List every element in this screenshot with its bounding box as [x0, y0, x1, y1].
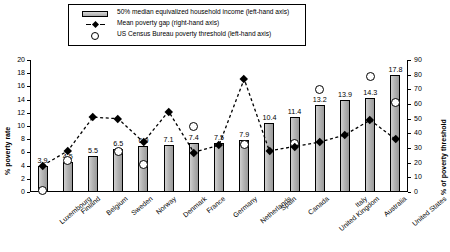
left-tick — [27, 192, 30, 193]
x-axis-label: Canada — [306, 195, 329, 216]
x-axis-label: Spain — [280, 195, 298, 212]
right-tick-label: 60 — [414, 100, 434, 107]
right-tick — [408, 119, 411, 120]
left-tick-label: 12 — [5, 109, 25, 116]
legend-label-bar: 50% median equivalized household income … — [117, 8, 289, 16]
legend-circle-swatch — [73, 31, 117, 40]
left-tick-label: 14 — [5, 96, 25, 103]
right-tick — [408, 163, 411, 164]
right-tick — [408, 177, 411, 178]
right-tick-label: 70 — [414, 85, 434, 92]
right-tick-label: 0 — [414, 188, 434, 195]
legend-line-swatch — [73, 20, 117, 29]
right-tick — [408, 133, 411, 134]
left-tick-label: 10 — [5, 122, 25, 129]
right-tick-label: 30 — [414, 144, 434, 151]
right-tick-label: 20 — [414, 159, 434, 166]
poverty-gap-line — [30, 60, 408, 192]
left-tick-label: 0 — [5, 188, 25, 195]
x-axis-label: France — [205, 195, 226, 214]
x-axis-label: Germany — [232, 195, 259, 219]
right-tick — [408, 60, 411, 61]
x-axis-label: Norway — [155, 195, 178, 216]
right-tick — [408, 75, 411, 76]
right-tick — [408, 148, 411, 149]
legend-item-circle: US Census Bureau poverty threshold (left… — [73, 30, 301, 40]
right-tick — [408, 192, 411, 193]
right-axis-title: % of poverty threshold — [440, 119, 447, 195]
right-tick-label: 10 — [414, 173, 434, 180]
left-tick-label: 2 — [5, 175, 25, 182]
left-tick-label: 16 — [5, 82, 25, 89]
x-axis-label: Denmark — [181, 195, 207, 219]
left-tick-label: 20 — [5, 56, 25, 63]
legend-label-line: Mean poverty gap (right-hand axis) — [117, 19, 219, 27]
right-tick-label: 80 — [414, 71, 434, 78]
x-axis-label: United States — [411, 195, 448, 227]
plot-area: 02468101214161820 0102030405060708090 3.… — [30, 60, 408, 192]
right-tick-label: 50 — [414, 115, 434, 122]
left-tick-label: 4 — [5, 162, 25, 169]
legend-bar-swatch — [73, 9, 117, 18]
legend-item-bar: 50% median equivalized household income … — [73, 8, 301, 18]
left-tick-label: 8 — [5, 135, 25, 142]
chart-legend: 50% median equivalized household income … — [68, 4, 306, 46]
x-axis-label: Belgium — [105, 195, 129, 217]
chart-figure: 50% median equivalized household income … — [0, 0, 450, 252]
right-tick — [408, 89, 411, 90]
right-tick-label: 40 — [414, 129, 434, 136]
x-axis-label: Sweden — [130, 195, 154, 217]
legend-label-circle: US Census Bureau poverty threshold (left… — [117, 30, 271, 38]
legend-item-line: Mean poverty gap (right-hand axis) — [73, 19, 301, 29]
x-axis-label: Australia — [383, 195, 408, 218]
left-tick-label: 18 — [5, 69, 25, 76]
right-tick-label: 90 — [414, 56, 434, 63]
right-tick — [408, 104, 411, 105]
left-tick-label: 6 — [5, 148, 25, 155]
